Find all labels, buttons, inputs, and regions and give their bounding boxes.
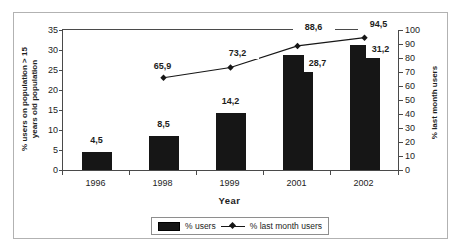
x-category-label: 2001 xyxy=(277,178,317,188)
y-left-tick-label: 35 xyxy=(28,25,58,35)
legend-label-last-month-users: % last month users xyxy=(250,221,322,231)
x-axis-tick-mark xyxy=(398,171,399,175)
y-right-tick-mark xyxy=(399,114,403,115)
y-right-tick-mark xyxy=(399,44,403,45)
y-left-tick-label: 0 xyxy=(28,165,58,175)
y-right-tick-mark xyxy=(399,58,403,59)
diamond-marker-icon xyxy=(227,64,233,70)
y-right-tick-label: 10 xyxy=(405,151,431,161)
y-right-tick-label: 100 xyxy=(405,25,431,35)
legend-line-diamond-icon xyxy=(221,226,245,227)
x-category-label: 1999 xyxy=(210,178,250,188)
y-left-tick-label: 15 xyxy=(28,105,58,115)
y-right-tick-mark xyxy=(399,86,403,87)
diamond-marker-icon xyxy=(160,75,166,81)
x-axis-tick-mark xyxy=(129,171,130,175)
legend: % users % last month users xyxy=(151,217,329,235)
y-right-tick-mark xyxy=(399,72,403,73)
y-right-tick-label: 20 xyxy=(405,137,431,147)
y-right-tick-mark xyxy=(399,128,403,129)
x-category-label: 1998 xyxy=(143,178,183,188)
y-left-tick-label: 5 xyxy=(28,145,58,155)
x-category-label: 1996 xyxy=(76,178,116,188)
y-left-tick-label: 10 xyxy=(28,125,58,135)
y-left-tick-label: 20 xyxy=(28,85,58,95)
y-right-tick-label: 60 xyxy=(405,81,431,91)
y-right-tick-mark xyxy=(399,170,403,171)
line-value-label: 65,9 xyxy=(142,61,184,72)
y-left-tick-label: 30 xyxy=(28,45,58,55)
y-right-tick-label: 90 xyxy=(405,39,431,49)
y-right-tick-label: 70 xyxy=(405,67,431,77)
legend-bar-swatch-icon xyxy=(158,222,180,231)
plot-area: 4,58,514,228,731,265,973,288,694,5 xyxy=(62,29,399,171)
line-value-label: 73,2 xyxy=(217,48,259,59)
y-right-tick-label: 80 xyxy=(405,53,431,63)
chart-figure: % users on population > 15 years old pop… xyxy=(13,12,448,239)
x-axis-tick-mark xyxy=(62,171,63,175)
bar-value-label: 14,2 xyxy=(211,96,251,106)
legend-label-users: % users xyxy=(185,221,216,231)
diamond-marker-icon xyxy=(294,43,300,49)
y-right-tick-label: 0 xyxy=(405,165,431,175)
y-right-tick-label: 40 xyxy=(405,109,431,119)
x-axis-title: Year xyxy=(62,195,397,206)
bar-value-label: 28,7 xyxy=(304,54,331,72)
x-category-label: 2002 xyxy=(344,178,384,188)
bar-value-label: 4,5 xyxy=(77,135,117,145)
line-value-label: 94,5 xyxy=(358,19,400,30)
line-value-label: 88,6 xyxy=(293,22,335,33)
x-axis-tick-mark xyxy=(263,171,264,175)
y-right-tick-mark xyxy=(399,142,403,143)
x-axis-tick-mark xyxy=(330,171,331,175)
bar-value-label: 8,5 xyxy=(144,119,184,129)
x-axis-tick-mark xyxy=(196,171,197,175)
bar-value-label: 31,2 xyxy=(366,40,395,58)
y-right-tick-mark xyxy=(399,100,403,101)
y-right-tick-label: 30 xyxy=(405,123,431,133)
y-right-tick-mark xyxy=(399,156,403,157)
y-left-tick-label: 25 xyxy=(28,65,58,75)
y-right-tick-mark xyxy=(399,30,403,31)
y-right-tick-label: 50 xyxy=(405,95,431,105)
